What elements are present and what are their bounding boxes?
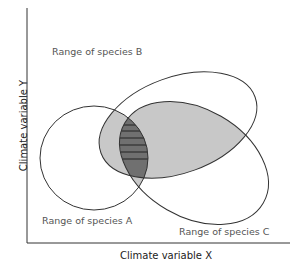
label-species-a: Range of species A: [42, 215, 132, 226]
label-species-c: Range of species C: [179, 226, 269, 237]
y-axis-label: Climate variable Y: [18, 71, 29, 181]
x-axis-label: Climate variable X: [120, 250, 212, 261]
label-species-b: Range of species B: [52, 46, 142, 57]
